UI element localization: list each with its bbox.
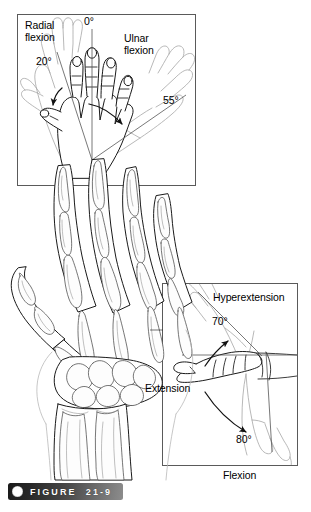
label-radial-flexion-line2: flexion	[25, 32, 55, 44]
label-flexion-angle: 80°	[236, 434, 252, 446]
filled-circle-icon	[12, 486, 23, 497]
figure-caption-bar: FIGURE 21-9	[8, 483, 123, 500]
label-ulnar-angle: 55°	[163, 95, 179, 107]
label-flexion: Flexion	[223, 470, 256, 482]
label-neutral-angle: 0°	[84, 16, 94, 28]
label-ulnar-flexion: Ulnar flexion	[124, 33, 154, 57]
figure-21-9: .pb{fill:none;stroke:#5a5a5a;stroke-widt…	[0, 0, 311, 512]
figure-caption-number: 21-9	[86, 487, 112, 497]
label-ulnar-flexion-line2: flexion	[124, 45, 154, 57]
label-extension: Extension	[145, 383, 190, 395]
label-hyperextension: Hyperextension	[213, 292, 285, 304]
label-radial-angle: 20°	[36, 56, 52, 68]
figure-caption-text: FIGURE 21-9	[30, 487, 112, 497]
figure-caption-label: FIGURE	[30, 487, 77, 497]
label-hyperextension-angle: 70°	[212, 316, 228, 328]
label-layer: Radial flexion 20° 0° Ulnar flexion 55° …	[0, 0, 311, 512]
label-radial-flexion: Radial flexion	[25, 20, 55, 44]
